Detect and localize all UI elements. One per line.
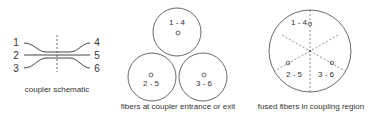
port-label-6: 6: [94, 63, 100, 74]
fiber-circle-1-4: [153, 8, 201, 56]
fiber-core-1-4: [176, 31, 180, 35]
entrance-label-3-6: 3 - 6: [196, 79, 213, 88]
symmetry-line-diagonal-1: [282, 35, 345, 71]
port-label-4: 4: [94, 37, 100, 48]
fused-label-3-6: 3 - 6: [318, 70, 335, 79]
fused-caption: fused fibers in coupling region: [258, 102, 364, 111]
fused-label-2-5: 2 - 5: [286, 70, 303, 79]
entrance-label-1-4: 1 - 4: [169, 18, 186, 27]
symmetry-line-diagonal-2: [275, 35, 338, 71]
fiber-core-3-6: [202, 73, 206, 77]
entrance-caption: fibers at coupler entrance or exit: [121, 102, 236, 111]
fiber-core-2-5: [149, 73, 153, 77]
fused-label-1-4: 1 - 4: [291, 18, 308, 27]
port-label-5: 5: [94, 50, 100, 61]
port-label-1: 1: [13, 37, 19, 48]
fused-center-point: [309, 50, 311, 52]
entrance-label-2-5: 2 - 5: [143, 79, 160, 88]
port-label-2: 2: [13, 50, 19, 61]
port-label-3: 3: [13, 63, 19, 74]
schematic-caption: coupler schematic: [25, 85, 89, 94]
coupler-diagram: 1 2 3 4 5 6 coupler schematic 1 - 4 2 - …: [0, 0, 383, 113]
coupler-schematic: [24, 35, 90, 72]
